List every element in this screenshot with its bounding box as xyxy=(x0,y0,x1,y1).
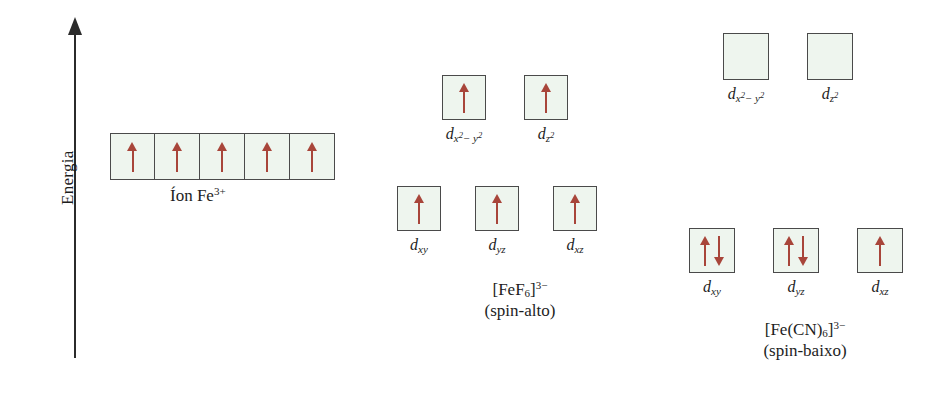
sup-2b: 2 xyxy=(760,90,764,100)
energy-axis-label: Energia xyxy=(58,150,78,205)
energy-axis-arrowhead xyxy=(68,17,82,35)
caption-low-spin-spin: (spin-baixo) xyxy=(715,340,895,362)
formula-charge: 3− xyxy=(834,319,846,331)
orbital-row-eg xyxy=(723,33,853,80)
panel-low-spin-t2g: dxy dyz dxz xyxy=(689,228,903,297)
orbital-labels-t2g: dxy dyz dxz xyxy=(397,236,597,255)
formula-open: [FeF xyxy=(492,280,524,299)
orbital-box-dx2y2[interactable] xyxy=(442,75,486,120)
orbital-row-t2g xyxy=(397,186,597,231)
orbital-label-dxy: dxy xyxy=(689,278,735,297)
panel-high-spin-eg: dx2− y2 dz2 xyxy=(442,75,568,144)
sub-xz: xz xyxy=(879,285,888,297)
caption-free-ion: Íon Fe3+ xyxy=(170,185,226,206)
orbital-label-dxy: dxy xyxy=(397,236,441,255)
electron-arrow-up xyxy=(700,236,711,266)
orbital-box-d4[interactable] xyxy=(245,133,290,180)
orbital-row-eg xyxy=(442,75,568,120)
sub-xz: xz xyxy=(574,243,583,255)
caption-low-spin: [Fe(CN)6]3− (spin-baixo) xyxy=(715,318,895,362)
sub-yz: yz xyxy=(496,243,505,255)
caption-high-spin: [FeF6]3− (spin-alto) xyxy=(450,278,590,322)
electron-arrows xyxy=(398,187,440,230)
orbital-labels-t2g: dxy dyz dxz xyxy=(689,278,903,297)
orbital-label-dz2: dz2 xyxy=(524,125,568,144)
d-letter: d xyxy=(728,85,736,102)
orbital-label-dz2: dz2 xyxy=(807,85,853,104)
panel-low-spin-eg: dx2− y2 dz2 xyxy=(723,33,853,104)
electron-arrow-down xyxy=(714,236,725,266)
orbital-box-dxz[interactable] xyxy=(857,228,903,273)
orbital-labels-eg: dx2− y2 dz2 xyxy=(442,125,568,144)
orbital-box-dz2[interactable] xyxy=(524,75,568,120)
panel-free-ion xyxy=(110,133,335,180)
formula-open: [Fe(CN) xyxy=(765,320,823,339)
orbital-labels-eg: dx2− y2 dz2 xyxy=(723,85,853,104)
orbital-box-d3[interactable] xyxy=(200,133,245,180)
d-letter: d xyxy=(410,236,418,253)
sub-minus-y: − y xyxy=(463,132,478,144)
electron-arrows xyxy=(200,134,244,179)
electron-arrows xyxy=(443,76,485,119)
orbital-box-dz2[interactable] xyxy=(807,33,853,80)
sub-minus-y: − y xyxy=(745,92,760,104)
orbital-row-t2g xyxy=(689,228,903,273)
orbital-label-dxz: dxz xyxy=(857,278,903,297)
electron-arrows xyxy=(690,229,734,272)
formula-charge: 3− xyxy=(536,279,548,291)
electron-arrows xyxy=(245,134,289,179)
d-letter: d xyxy=(822,85,830,102)
electron-arrow-down xyxy=(798,236,809,266)
electron-arrow-up xyxy=(570,194,581,224)
d-letter: d xyxy=(446,125,454,142)
electron-arrow-up xyxy=(459,83,470,113)
electron-arrows xyxy=(774,229,818,272)
orbital-label-dx2y2: dx2− y2 xyxy=(723,85,769,104)
electron-arrows xyxy=(155,134,199,179)
electron-arrow-up xyxy=(217,142,228,172)
orbital-box-dx2y2[interactable] xyxy=(723,33,769,80)
orbital-box-d1[interactable] xyxy=(110,133,155,180)
sup-2: 2 xyxy=(834,90,838,100)
orbital-box-dyz[interactable] xyxy=(773,228,819,273)
electron-arrow-up xyxy=(262,142,273,172)
orbital-box-dxz[interactable] xyxy=(553,186,597,231)
electron-arrow-up xyxy=(875,236,886,266)
sub-xy: xy xyxy=(418,243,428,255)
orbital-label-dyz: dyz xyxy=(773,278,819,297)
electron-arrows xyxy=(525,76,567,119)
caption-free-ion-charge: 3+ xyxy=(214,185,226,197)
sub-xy: xy xyxy=(711,285,721,297)
electron-arrows xyxy=(554,187,596,230)
orbital-box-dyz[interactable] xyxy=(475,186,519,231)
electron-arrows xyxy=(290,134,334,179)
electron-arrows xyxy=(111,134,154,179)
orbital-box-d5[interactable] xyxy=(290,133,335,180)
sub-yz: yz xyxy=(795,285,804,297)
orbital-row-degenerate-d xyxy=(110,133,335,180)
orbital-box-dxy[interactable] xyxy=(397,186,441,231)
figure-canvas: Energia xyxy=(0,0,943,393)
sup-2: 2 xyxy=(550,130,554,140)
d-letter: d xyxy=(703,278,711,295)
d-letter: d xyxy=(538,125,546,142)
orbital-box-dxy[interactable] xyxy=(689,228,735,273)
electron-arrow-up xyxy=(172,142,183,172)
orbital-box-d2[interactable] xyxy=(155,133,200,180)
electron-arrows xyxy=(858,229,902,272)
electron-arrow-up xyxy=(492,194,503,224)
orbital-label-dyz: dyz xyxy=(475,236,519,255)
panel-high-spin-t2g: dxy dyz dxz xyxy=(397,186,597,255)
electron-arrow-up xyxy=(414,194,425,224)
caption-high-spin-spin: (spin-alto) xyxy=(450,300,590,322)
electron-arrow-up xyxy=(307,142,318,172)
caption-free-ion-text: Íon Fe xyxy=(170,186,214,205)
orbital-label-dx2y2: dx2− y2 xyxy=(442,125,486,144)
sup-2b: 2 xyxy=(478,130,482,140)
electron-arrow-up xyxy=(541,83,552,113)
orbital-label-dxz: dxz xyxy=(553,236,597,255)
electron-arrows xyxy=(724,34,768,79)
electron-arrow-up xyxy=(784,236,795,266)
electron-arrows xyxy=(808,34,852,79)
electron-arrows xyxy=(476,187,518,230)
